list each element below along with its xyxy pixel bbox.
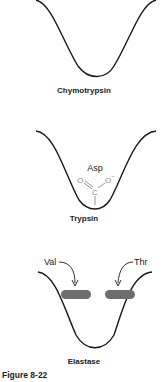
oxygen-minus: O [105, 176, 111, 185]
elastase-pocket [38, 272, 152, 348]
chymotrypsin-label: Chymotrypsin [0, 86, 168, 95]
asp-label: Asp [87, 163, 103, 173]
thr-bar [105, 290, 135, 299]
thr-arrow [118, 262, 133, 283]
val-label: Val [44, 257, 56, 267]
trypsin-label: Trypsin [0, 214, 168, 223]
thr-label: Thr [134, 257, 148, 267]
chymotrypsin-pocket [36, 0, 156, 77]
val-bar [61, 290, 91, 299]
elastase-label: Elastase [0, 357, 168, 366]
val-arrow [59, 262, 75, 283]
oxygen-double: O [77, 176, 83, 185]
specificity-pockets-diagram: C O O − Asp Val Thr [0, 0, 168, 382]
figure-caption: Figure 8-22 [2, 370, 47, 380]
charge-sign: − [111, 173, 115, 179]
carbon-atom: C [92, 188, 98, 197]
